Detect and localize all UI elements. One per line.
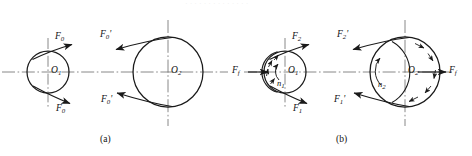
panel-a-force-top-label: F0 bbox=[55, 32, 64, 42]
panel-a-large-force-bottom-label: F0' bbox=[101, 95, 112, 105]
panel-a-caption: (a) bbox=[100, 134, 111, 144]
diagram-vector-layer bbox=[0, 0, 472, 156]
panel-b-small-rotation-label: n1 bbox=[277, 79, 285, 88]
panel-b-large-rotation-label: n2 bbox=[378, 80, 386, 89]
panel-b-force-top-label: F2 bbox=[292, 32, 301, 42]
panel-a-large-force-top-arrow bbox=[116, 38, 172, 50]
panel-a-large-force-bottom-arrow bbox=[117, 93, 172, 107]
panel-a-graphics bbox=[2, 20, 228, 126]
panel-a-large-center-label: O2 bbox=[171, 66, 181, 76]
belt-drive-force-diagram: · · · · · · · · · · · · · · bbox=[0, 0, 472, 156]
panel-b-small-friction-force-label: Ff bbox=[232, 66, 240, 76]
panel-b-small-center-label: O1 bbox=[288, 66, 298, 76]
panel-a-small-center-label: O1 bbox=[51, 66, 61, 76]
panel-b-large-force-bottom-label: F1' bbox=[334, 95, 345, 105]
panel-b-large-force-top-label: F2' bbox=[337, 30, 348, 40]
panel-b-force-bottom-label: F1 bbox=[293, 104, 302, 114]
panel-a-large-force-top-label: F0' bbox=[100, 30, 111, 40]
panel-b-force-bottom-arrow bbox=[270, 86, 307, 104]
panel-b-caption: (b) bbox=[336, 134, 347, 144]
panel-b-large-friction-force-label: Ff bbox=[449, 66, 457, 76]
panel-a-force-bottom-label: F0 bbox=[56, 104, 65, 114]
panel-b-large-center-label: O2 bbox=[408, 66, 418, 76]
panel-a-force-bottom-arrow bbox=[33, 86, 70, 104]
